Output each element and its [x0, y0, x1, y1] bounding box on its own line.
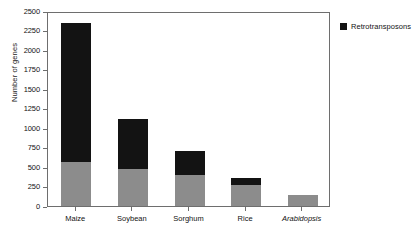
y-tick-label: 1750: [24, 65, 40, 74]
y-tick-label: 1000: [24, 124, 40, 133]
bar-segment-other-genes: [288, 195, 318, 206]
y-tick-label: 500: [28, 163, 40, 172]
bar-arabidopsis: [288, 195, 318, 206]
plot-area: [47, 12, 330, 207]
bar-chart-figure: Number of genes 025050075010001250150017…: [0, 0, 416, 236]
bar-segment-retrotransposons: [231, 178, 261, 185]
y-tick-label: 0: [36, 202, 40, 211]
bar-segment-other-genes: [118, 169, 148, 206]
x-tick-mark: [131, 207, 132, 211]
y-tick-label: 2500: [24, 7, 40, 16]
bar-segment-retrotransposons: [118, 119, 148, 169]
x-tick-label: Arabidopsis: [262, 214, 342, 223]
y-tick-label: 1250: [24, 104, 40, 113]
bar-segment-retrotransposons: [61, 23, 91, 162]
x-tick-mark: [245, 207, 246, 211]
x-tick-mark: [301, 207, 302, 211]
y-tick-label: 2000: [24, 46, 40, 55]
y-tick-label: 1500: [24, 85, 40, 94]
x-tick-mark: [188, 207, 189, 211]
bar-maize: [61, 23, 91, 206]
bar-segment-other-genes: [231, 185, 261, 206]
legend-label-retrotransposons: Retrotransposons: [351, 22, 411, 31]
legend-swatch-retrotransposons: [340, 23, 347, 30]
y-axis-title: Number of genes: [10, 13, 19, 133]
x-tick-mark: [75, 207, 76, 211]
bar-soybean: [118, 119, 148, 206]
bar-segment-other-genes: [61, 162, 91, 206]
bar-segment-retrotransposons: [175, 151, 205, 175]
chart-legend: Retrotransposons: [340, 22, 411, 31]
bar-sorghum: [175, 151, 205, 206]
bar-rice: [231, 178, 261, 206]
y-tick-label: 250: [28, 182, 40, 191]
y-tick-label: 750: [28, 143, 40, 152]
bar-segment-other-genes: [175, 175, 205, 206]
y-tick-label: 2250: [24, 26, 40, 35]
